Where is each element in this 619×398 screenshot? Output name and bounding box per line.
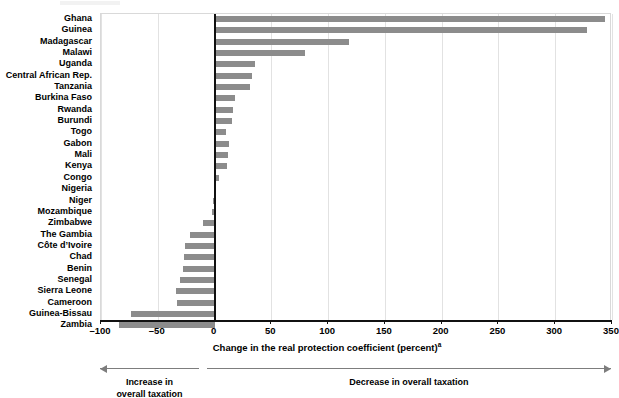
bar-row <box>101 48 610 59</box>
category-label: Côte d’Ivoire <box>0 240 96 251</box>
annotation-text: Increase inoverall taxation <box>100 376 199 398</box>
category-label: Niger <box>0 195 96 206</box>
bar-row <box>101 298 610 309</box>
bar-row <box>101 150 610 161</box>
x-axis-title-text: Change in the real protection coefficien… <box>213 342 438 353</box>
category-label: Burkina Faso <box>0 92 96 103</box>
bar-guinea <box>215 27 587 33</box>
plot-area <box>100 13 611 320</box>
bar-rows <box>101 14 610 320</box>
bar-togo <box>215 129 226 135</box>
category-label: Gabon <box>0 138 96 149</box>
bar-burkina-faso <box>215 95 235 101</box>
category-axis-labels: GhanaGuineaMadagascarMalawiUgandaCentral… <box>0 13 96 320</box>
bar-the-gambia <box>190 232 215 238</box>
annotation-text-line: overall taxation <box>100 388 199 398</box>
bar-row <box>101 173 610 184</box>
category-label: Ghana <box>0 13 96 24</box>
bar-gabon <box>215 141 230 147</box>
bar-malawi <box>215 50 306 56</box>
bar-row <box>101 309 610 320</box>
category-label: Nigeria <box>0 183 96 194</box>
category-label: Mali <box>0 149 96 160</box>
category-label: Senegal <box>0 274 96 285</box>
bar-zambia <box>119 322 214 328</box>
category-label: Kenya <box>0 160 96 171</box>
top-edge-artifact <box>60 1 120 5</box>
category-label: Uganda <box>0 58 96 69</box>
bar-row <box>101 207 610 218</box>
bar-row <box>101 116 610 127</box>
category-label: Sierra Leone <box>0 285 96 296</box>
zero-axis-line <box>214 14 216 320</box>
bar-mali <box>215 152 229 158</box>
category-label: Cameroon <box>0 297 96 308</box>
bar-row <box>101 14 610 25</box>
bar-row <box>101 320 610 331</box>
category-label: Zimbabwe <box>0 217 96 228</box>
bar-row <box>101 139 610 150</box>
bar-row <box>101 218 610 229</box>
category-label: Burundi <box>0 115 96 126</box>
annotation-line <box>100 368 199 369</box>
category-label: Zambia <box>0 319 96 330</box>
bar-row <box>101 264 610 275</box>
bar-row <box>101 241 610 252</box>
bar-row <box>101 82 610 93</box>
bar-kenya <box>215 163 227 169</box>
category-label: Rwanda <box>0 104 96 115</box>
bar-tanzania <box>215 84 250 90</box>
category-label: The Gambia <box>0 229 96 240</box>
category-label: Malawi <box>0 47 96 58</box>
category-label: Benin <box>0 263 96 274</box>
bar-row <box>101 93 610 104</box>
bar-guinea-bissau <box>131 311 215 317</box>
bar-benin <box>183 266 215 272</box>
annotation-text: Decrease in overall taxation <box>207 376 611 388</box>
bar-rwanda <box>215 107 233 113</box>
bar-madagascar <box>215 39 349 45</box>
bar-burundi <box>215 118 232 124</box>
category-label: Guinea-Bissau <box>0 308 96 319</box>
bar-row <box>101 161 610 172</box>
category-label: Madagascar <box>0 36 96 47</box>
bar-row <box>101 286 610 297</box>
arrowhead-right-icon <box>604 365 611 373</box>
arrowhead-left-icon <box>100 365 107 373</box>
annotation-text-line: Increase in <box>100 376 199 388</box>
bar-senegal <box>180 277 214 283</box>
bar-row <box>101 127 610 138</box>
x-tick <box>611 320 612 324</box>
bar-sierra-leone <box>176 288 215 294</box>
bar-c-te-d-ivoire <box>185 243 215 249</box>
bar-cameroon <box>177 300 214 306</box>
bar-row <box>101 25 610 36</box>
bar-uganda <box>215 61 256 67</box>
x-axis-title-footnote-marker: a <box>438 341 442 348</box>
annotation-arrow <box>100 363 199 375</box>
bar-row <box>101 275 610 286</box>
gridline <box>612 14 613 320</box>
category-label: Guinea <box>0 24 96 35</box>
bar-ghana <box>215 16 606 22</box>
bar-central-african-rep <box>215 73 252 79</box>
bar-row <box>101 252 610 263</box>
bar-row <box>101 59 610 70</box>
category-label: Togo <box>0 126 96 137</box>
bar-chad <box>184 254 215 260</box>
x-axis-title: Change in the real protection coefficien… <box>0 341 614 353</box>
bar-row <box>101 37 610 48</box>
annotation-line <box>207 368 611 369</box>
category-label: Congo <box>0 172 96 183</box>
bar-row <box>101 196 610 207</box>
annotation-text-line: Decrease in overall taxation <box>207 376 611 388</box>
annotation-arrow <box>207 363 611 375</box>
bar-row <box>101 71 610 82</box>
bar-row <box>101 184 610 195</box>
category-label: Chad <box>0 251 96 262</box>
bar-row <box>101 230 610 241</box>
bar-row <box>101 105 610 116</box>
category-label: Central African Rep. <box>0 70 96 81</box>
category-label: Tanzania <box>0 81 96 92</box>
